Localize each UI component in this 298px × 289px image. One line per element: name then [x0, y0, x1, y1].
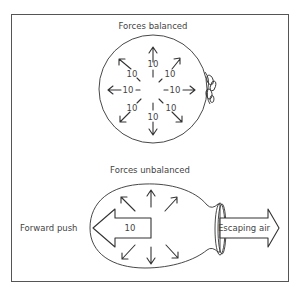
forward-push-value: 10 — [125, 223, 136, 233]
force-label-down-right: 10 — [166, 103, 177, 113]
balloon-forces-diagram: Forces balanced 10 10 10 — [0, 0, 298, 289]
force-label-down-left: 10 — [127, 103, 138, 113]
force-label-left: 10 — [123, 85, 134, 95]
force-arrow-up-left — [121, 197, 135, 211]
force-label-right: 10 — [170, 85, 181, 95]
force-label-down: 10 — [148, 112, 159, 122]
unbalanced-balloon: 10 Escaping air — [90, 184, 279, 268]
force-arrow-up — [147, 190, 155, 207]
forward-push-label: Forward push — [20, 223, 77, 233]
force-label-up-left: 10 — [127, 69, 138, 79]
forward-push-arrow — [93, 209, 151, 247]
force-arrow-down — [147, 247, 155, 264]
force-label-up: 10 — [148, 59, 159, 69]
diagram-frame — [12, 15, 289, 282]
force-label-up-right: 10 — [165, 69, 176, 79]
balanced-balloon: 10 10 10 10 10 10 — [99, 35, 217, 143]
escaping-air-label: Escaping air — [218, 223, 270, 233]
force-arrow-up-right — [165, 197, 177, 211]
force-arrow-down-left — [122, 245, 135, 259]
title-forces-balanced: Forces balanced — [119, 21, 188, 31]
title-forces-unbalanced: Forces unbalanced — [110, 165, 190, 175]
force-arrow-down-right — [166, 245, 178, 258]
